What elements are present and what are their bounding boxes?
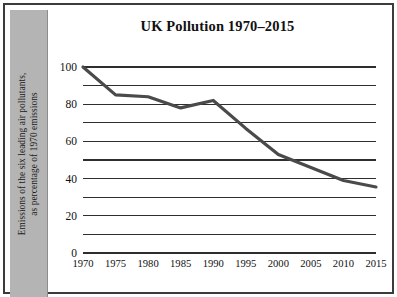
y-axis-label-line-1: Emissions of the six leading air polluta… — [17, 72, 29, 235]
data-series-line — [83, 67, 376, 187]
x-axis-tick-label: 1985 — [170, 258, 191, 269]
x-axis-tick-label: 1990 — [203, 258, 224, 269]
x-axis-tick-label: 1970 — [72, 258, 93, 269]
chart-frame: Emissions of the six leading air polluta… — [3, 3, 394, 294]
y-axis-tick-labels: 020406080100 — [49, 67, 77, 253]
x-axis-tick-label: 2010 — [333, 258, 354, 269]
x-axis-tick-label: 1995 — [235, 258, 256, 269]
y-axis-label: Emissions of the six leading air polluta… — [17, 72, 40, 235]
data-line-svg — [83, 67, 376, 253]
y-axis-label-band: Emissions of the six leading air polluta… — [10, 10, 48, 297]
x-axis-tick-label: 2000 — [268, 258, 289, 269]
plot-area — [83, 67, 376, 253]
y-axis-label-line-2: as percentage of 1970 emissions — [29, 72, 41, 235]
x-axis-tick-label: 1980 — [138, 258, 159, 269]
chart-title: UK Pollution 1970–2015 — [49, 18, 386, 35]
x-axis-tick-label: 2015 — [365, 258, 386, 269]
y-axis-tick-label: 60 — [47, 135, 77, 147]
x-axis-tick-label: 2005 — [300, 258, 321, 269]
y-axis-tick-label: 40 — [47, 173, 77, 185]
y-axis-tick-label: 100 — [47, 61, 77, 73]
y-axis-tick-label: 80 — [47, 98, 77, 110]
y-axis-tick-label: 20 — [47, 210, 77, 222]
x-axis-tick-label: 1975 — [105, 258, 126, 269]
chart-figure: Emissions of the six leading air polluta… — [0, 0, 397, 297]
x-axis-tick-labels: 1970197519801985199019952000200520102015 — [83, 258, 376, 274]
